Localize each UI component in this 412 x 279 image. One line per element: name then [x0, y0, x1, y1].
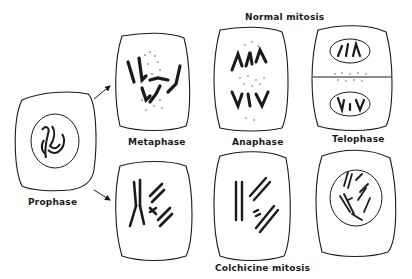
normal-anaphase-cell — [214, 27, 288, 131]
normal-telophase-cell — [312, 26, 392, 131]
anaphase-label: Anaphase — [232, 137, 283, 147]
arrow-to-colchicine-icon — [94, 190, 110, 200]
normal-metaphase-cell — [116, 33, 190, 130]
telophase-label: Telophase — [332, 134, 385, 144]
arrow-to-normal-icon — [94, 86, 110, 99]
metaphase-chromosomes — [128, 58, 180, 102]
metaphase-label: Metaphase — [128, 137, 186, 147]
normal-mitosis-title: Normal mitosis — [245, 12, 324, 22]
colchicine-telophase-cell — [316, 150, 396, 256]
colchicine-metaphase-cell — [116, 162, 192, 261]
colchicine-mitosis-title: Colchicine mitosis — [215, 263, 310, 273]
colchicine-anaphase-cell — [214, 152, 290, 261]
prophase-label: Prophase — [28, 197, 77, 207]
prophase-chromatin — [42, 126, 64, 158]
anaphase-chromosomes — [232, 50, 268, 106]
prophase-cell — [15, 92, 96, 191]
